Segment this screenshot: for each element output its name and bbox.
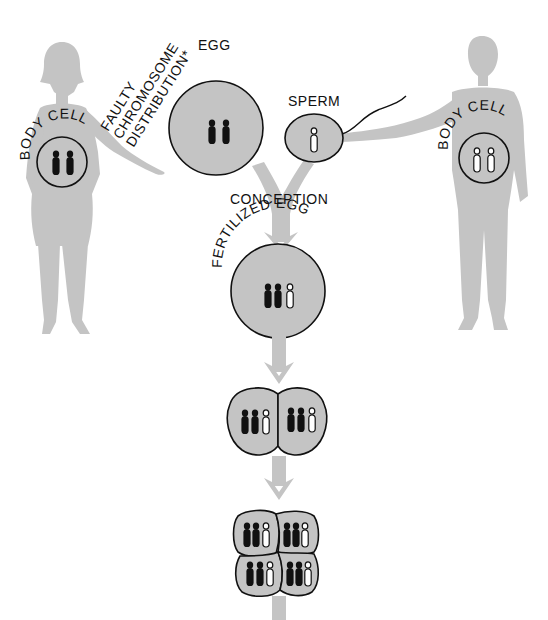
two-cell-right-chromosomes: [287, 407, 315, 432]
division-arrow-2: [264, 456, 294, 500]
four-cell-bottom-left-chromosomes: [246, 561, 273, 586]
two-cell-stage: [227, 388, 326, 455]
diagram-canvas: BODY CELL FAULTY CHROMOSOME DISTRIBUTION…: [0, 0, 548, 620]
two-cell-left-chromosomes: [241, 409, 269, 434]
four-cell-stage: [234, 510, 319, 596]
egg-cell: [169, 81, 263, 175]
four-cell-top-left-chromosomes: [243, 522, 269, 547]
division-arrow-1: [264, 336, 294, 384]
fertilized-egg-chromosomes: [264, 283, 293, 308]
four-cell-top-right-chromosomes: [283, 522, 308, 547]
division-arrow-3: [272, 596, 286, 620]
egg-label: EGG: [198, 37, 231, 53]
father-silhouette: [319, 36, 528, 330]
sperm-label: SPERM: [288, 93, 340, 109]
sperm-chromosomes: [311, 128, 317, 152]
four-cell-bottom-right-chromosomes: [286, 561, 311, 586]
